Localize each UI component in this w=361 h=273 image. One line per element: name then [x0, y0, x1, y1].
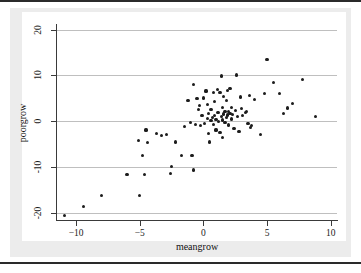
scatter-point	[218, 91, 221, 94]
y-tick-mark	[51, 30, 56, 31]
scatter-point	[253, 98, 256, 101]
scatter-point	[169, 172, 172, 175]
figure-page: 20100-10-20 −10−50510 poorgrow meangrow	[0, 0, 361, 273]
y-tick-mark	[51, 213, 56, 214]
axes-container: 20100-10-20 −10−50510 poorgrow meangrow	[0, 0, 361, 273]
scatter-point	[200, 114, 203, 117]
scatter-point	[223, 121, 226, 124]
scatter-point	[301, 78, 304, 81]
y-tick-mark	[51, 167, 56, 168]
scatter-point	[291, 102, 294, 105]
scatter-point	[250, 124, 253, 127]
scatter-point	[231, 113, 234, 116]
gridline-y	[57, 213, 337, 214]
x-tick-label: 5	[247, 228, 287, 239]
gridline-y	[57, 75, 337, 76]
scatter-point	[209, 119, 212, 122]
scatter-point	[246, 122, 249, 125]
scatter-point	[146, 141, 149, 144]
scatter-point	[206, 117, 209, 120]
y-axis-title: poorgrow	[17, 88, 29, 158]
scatter-point	[186, 99, 189, 102]
scatter-point	[230, 106, 233, 109]
scatter-point	[203, 122, 206, 125]
scatter-point	[314, 115, 317, 118]
scatter-point	[225, 99, 228, 102]
scatter-point	[192, 168, 195, 171]
scatter-point	[259, 133, 262, 136]
x-tick-label: −5	[120, 228, 160, 239]
x-tick-label: 0	[183, 228, 223, 239]
scatter-point	[82, 205, 85, 208]
scatter-point	[217, 111, 220, 114]
y-tick-label: -20	[28, 207, 48, 219]
scatter-point	[241, 114, 244, 117]
scatter-point	[220, 74, 223, 77]
scatter-point	[245, 110, 248, 113]
scatter-point	[199, 124, 202, 127]
scatter-point	[265, 58, 268, 61]
scatter-point	[190, 154, 193, 157]
scatter-point	[236, 115, 239, 118]
scatter-point	[222, 95, 225, 98]
scatter-point	[240, 107, 243, 110]
scatter-point	[212, 123, 215, 126]
scatter-point	[141, 154, 144, 157]
x-tick-mark	[267, 221, 268, 226]
plot-area	[57, 25, 337, 220]
scatter-point	[204, 89, 207, 92]
scatter-point	[180, 154, 183, 157]
gridline-y	[57, 121, 337, 122]
scatter-point	[143, 173, 146, 176]
scatter-point	[221, 106, 224, 109]
scatter-point	[207, 112, 210, 115]
x-axis-title: meangrow	[57, 241, 337, 253]
scatter-point	[230, 117, 233, 120]
scatter-point	[197, 108, 200, 111]
scatter-point	[234, 109, 237, 112]
scatter-point	[206, 103, 209, 106]
scatter-point	[272, 81, 275, 84]
gridline-y	[57, 167, 337, 168]
x-tick-mark	[203, 221, 204, 226]
x-tick-mark	[76, 221, 77, 226]
scatter-point	[192, 83, 195, 86]
scatter-point	[198, 104, 201, 107]
scatter-point	[263, 92, 266, 95]
y-tick-mark	[51, 75, 56, 76]
scatter-point	[125, 173, 128, 176]
scatter-point	[286, 106, 289, 109]
scatter-point	[217, 120, 220, 123]
x-axis-title-label: meangrow	[176, 241, 218, 252]
scatter-point	[195, 97, 198, 100]
scatter-point	[248, 94, 251, 97]
x-tick-mark	[140, 221, 141, 226]
scatter-point	[282, 112, 285, 115]
scatter-point	[213, 100, 216, 103]
scatter-point	[227, 123, 230, 126]
y-axis-title-label: poorgrow	[17, 88, 29, 158]
scatter-point	[218, 131, 221, 134]
y-tick-label: 0	[28, 115, 48, 127]
scatter-point	[100, 194, 103, 197]
scatter-point	[138, 194, 141, 197]
scatter-point	[237, 130, 240, 133]
scatter-point	[225, 116, 228, 119]
scatter-point	[63, 214, 66, 217]
scatter-point	[228, 87, 231, 90]
scatter-point	[278, 92, 281, 95]
scatter-point	[160, 134, 163, 137]
y-tick-label: -10	[28, 161, 48, 173]
scatter-point	[208, 140, 211, 143]
y-tick-mark	[51, 121, 56, 122]
x-axis-line	[56, 220, 338, 221]
y-tick-label: 10	[28, 69, 48, 81]
scatter-point	[214, 128, 217, 131]
scatter-point	[189, 121, 192, 124]
scatter-point	[213, 114, 216, 117]
x-tick-mark	[331, 221, 332, 226]
scatter-point	[235, 73, 238, 76]
scatter-point	[144, 128, 147, 131]
x-tick-label: −10	[56, 228, 96, 239]
scatter-point	[165, 133, 168, 136]
